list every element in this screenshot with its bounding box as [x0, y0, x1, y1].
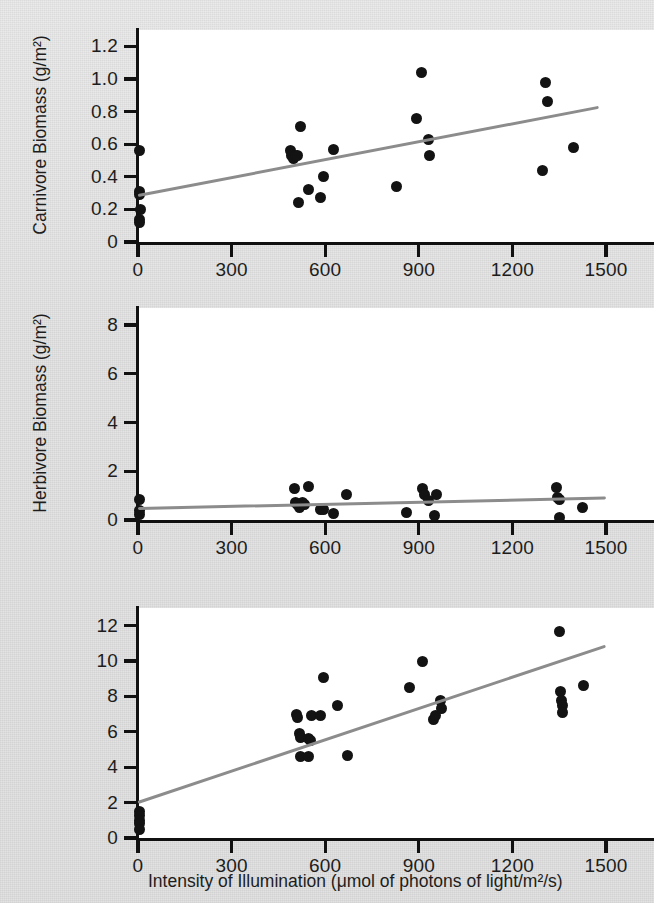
data-point	[540, 77, 551, 88]
plot-area-primary-producer	[138, 608, 654, 838]
data-point	[537, 165, 548, 176]
y-axis-title-primary-producer-line2: (g algae/m²)	[0, 0, 20, 20]
y-axis-title-herbivore: Herbivore Biomass (g/m²)	[30, 288, 50, 538]
y-tick-label: 2	[52, 461, 118, 480]
plot-area-herbivore	[138, 308, 654, 520]
y-tick-mark	[124, 240, 137, 243]
x-tick-mark	[230, 245, 233, 257]
plot-area-carnivore	[138, 30, 654, 242]
x-tick-mark	[511, 245, 514, 257]
data-point	[554, 626, 565, 637]
x-tick-mark	[604, 523, 607, 535]
data-point	[416, 67, 427, 78]
x-axis-line-carnivore	[136, 242, 654, 245]
y-axis-line-herbivore	[136, 306, 139, 522]
x-tick-mark	[230, 523, 233, 535]
data-point	[429, 510, 440, 521]
data-point	[289, 483, 300, 494]
x-tick-label: 600	[285, 260, 365, 279]
x-tick-mark	[417, 841, 420, 853]
y-tick-label: 6	[52, 722, 118, 741]
x-tick-mark	[604, 841, 607, 853]
y-tick-label: 2	[52, 793, 118, 812]
x-tick-mark	[604, 245, 607, 257]
data-point	[295, 121, 306, 132]
data-point	[341, 489, 352, 500]
x-tick-mark	[417, 523, 420, 535]
x-tick-label: 300	[192, 538, 272, 557]
data-point	[554, 512, 565, 523]
x-tick-mark	[324, 841, 327, 853]
data-point	[318, 672, 329, 683]
data-point	[303, 481, 314, 492]
y-tick-label: 0.6	[52, 134, 118, 153]
y-tick-mark	[124, 470, 137, 473]
x-tick-mark	[511, 841, 514, 853]
data-point	[332, 700, 343, 711]
y-tick-label: 8	[52, 315, 118, 334]
y-tick-label: 4	[52, 413, 118, 432]
figure-three-panel-scatter: Carnivore Biomass (g/m²) 00.20.40.60.81.…	[0, 0, 654, 903]
y-tick-label: 0	[52, 828, 118, 847]
y-tick-mark	[124, 77, 137, 80]
x-axis-line-herbivore	[136, 520, 654, 523]
data-point	[551, 482, 562, 493]
data-point	[134, 824, 145, 835]
y-tick-label: 8	[52, 686, 118, 705]
y-tick-mark	[124, 421, 137, 424]
data-point	[134, 494, 145, 505]
x-tick-mark	[136, 841, 139, 853]
y-tick-mark	[124, 518, 137, 521]
x-tick-label: 1200	[472, 260, 552, 279]
x-tick-mark	[417, 245, 420, 257]
x-tick-label: 300	[192, 260, 272, 279]
y-tick-mark	[124, 766, 137, 769]
data-point	[328, 144, 339, 155]
y-tick-label: 0	[52, 232, 118, 251]
x-axis-title: Intensity of Illumination (μmol of photo…	[148, 871, 563, 892]
x-tick-label: 0	[98, 538, 178, 557]
y-tick-mark	[124, 624, 137, 627]
x-tick-label: 600	[285, 538, 365, 557]
x-axis-line-primary-producer	[136, 838, 654, 841]
y-tick-label: 10	[52, 651, 118, 670]
x-tick-label: 1500	[566, 538, 646, 557]
data-point	[411, 113, 422, 124]
y-axis-title-carnivore: Carnivore Biomass (g/m²)	[30, 10, 50, 260]
y-tick-mark	[124, 695, 137, 698]
y-tick-label: 0.4	[52, 167, 118, 186]
y-tick-mark	[124, 110, 137, 113]
x-tick-label: 0	[98, 260, 178, 279]
y-tick-mark	[124, 659, 137, 662]
y-tick-mark	[124, 323, 137, 326]
y-tick-mark	[124, 801, 137, 804]
data-point	[134, 217, 145, 228]
y-tick-mark	[124, 175, 137, 178]
y-tick-mark	[124, 730, 137, 733]
x-tick-label: 1200	[472, 538, 552, 557]
y-tick-label: 0.8	[52, 102, 118, 121]
y-tick-label: 12	[52, 616, 118, 635]
x-tick-label: 1500	[566, 856, 646, 875]
x-tick-mark	[230, 841, 233, 853]
data-point	[303, 751, 314, 762]
x-tick-mark	[511, 523, 514, 535]
y-tick-label: 1.0	[52, 69, 118, 88]
x-tick-label: 900	[379, 260, 459, 279]
y-tick-mark	[124, 372, 137, 375]
x-tick-mark	[136, 245, 139, 257]
x-tick-mark	[136, 523, 139, 535]
y-tick-label: 6	[52, 364, 118, 383]
y-tick-mark	[124, 836, 137, 839]
data-point	[391, 181, 402, 192]
x-tick-mark	[324, 523, 327, 535]
panel-primary-producer-biomass: Primary Producer Biomass (g algae/m²) 02…	[0, 0, 654, 40]
x-tick-label: 1500	[566, 260, 646, 279]
y-tick-label: 0.2	[52, 199, 118, 218]
data-point	[404, 682, 415, 693]
y-axis-line-primary-producer	[136, 606, 139, 840]
y-tick-label: 4	[52, 757, 118, 776]
x-tick-mark	[324, 245, 327, 257]
y-tick-mark	[124, 45, 137, 48]
data-point	[568, 142, 579, 153]
